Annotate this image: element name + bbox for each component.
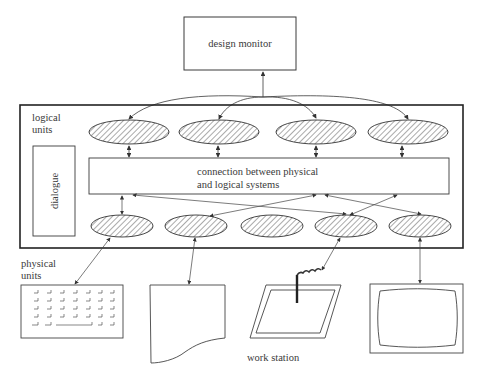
dialogue-label: dialogue (49, 173, 60, 209)
physical-link-2 (165, 215, 227, 237)
physical-units-label-1: physical (21, 258, 56, 269)
logical-connection-arrows (129, 146, 402, 157)
physical-link-3 (241, 215, 303, 237)
connection-label-1: connection between physical (197, 166, 318, 177)
logical-unit-2 (179, 120, 259, 144)
display-screen-icon (370, 284, 463, 353)
design-monitor-label: design monitor (208, 38, 272, 49)
logical-units-label-1: logical (32, 112, 61, 123)
work-station-label: work station (247, 352, 300, 363)
monitor-arcs (129, 96, 408, 119)
logical-unit-1 (89, 120, 169, 144)
physical-units-label-2: units (21, 270, 41, 281)
connection-label-2: and logical systems (197, 179, 279, 190)
physical-link-5 (389, 215, 451, 237)
device-arrows (75, 238, 420, 284)
graphics-tablet-icon (250, 269, 341, 338)
physical-link-1 (91, 215, 153, 237)
keyboard-icon (21, 285, 123, 338)
physical-link-4 (315, 215, 377, 237)
design-monitor-box: design monitor (184, 17, 296, 70)
system-diagram: design monitor logical units dialogue co… (0, 0, 481, 381)
logical-unit-3 (276, 120, 356, 144)
connection-box: connection between physical and logical … (89, 158, 449, 194)
logical-units-label-2: units (32, 124, 52, 135)
stylus-cable-icon (297, 269, 321, 275)
physical-connection-arrows (122, 195, 421, 216)
dialogue-box: dialogue (33, 146, 75, 236)
logical-unit-4 (368, 120, 448, 144)
printer-paper-icon (150, 285, 225, 363)
